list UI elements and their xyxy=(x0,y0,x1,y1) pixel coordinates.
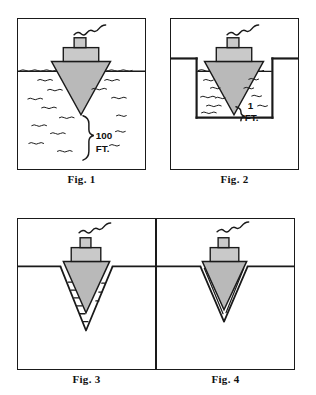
ship-hull xyxy=(63,261,109,312)
figure-row-bottom: Fig. 3 xyxy=(0,218,316,393)
ship-superstructure xyxy=(216,38,251,62)
figure-caption-4: Fig. 4 xyxy=(156,373,295,385)
smoke-trail xyxy=(217,222,249,232)
smoke-trail xyxy=(79,223,111,233)
figure-panel-1: 100 FT. xyxy=(17,18,146,170)
fig1-drawing: 100 FT. xyxy=(18,19,145,169)
figure-panel-3 xyxy=(17,218,156,370)
figure-caption-1: Fig. 1 xyxy=(17,173,146,185)
fig2-drawing: 1 FT. xyxy=(171,19,298,169)
figure-row-top: 100 FT. Fig. 1 xyxy=(0,18,316,193)
smoke-trail xyxy=(74,25,106,35)
ship-superstructure xyxy=(71,238,101,262)
figure-panel-2: 1 FT. xyxy=(170,18,299,170)
fig2-depth-unit: FT. xyxy=(245,112,259,123)
ship-superstructure xyxy=(210,238,239,262)
fig3-drawing xyxy=(18,219,155,369)
figure-caption-3: Fig. 3 xyxy=(17,373,156,385)
fig4-drawing xyxy=(157,219,294,369)
fig2-depth-value: 1 xyxy=(248,100,254,111)
smoke-trail xyxy=(227,25,259,35)
fig1-depth-value: 100 xyxy=(96,130,113,141)
figure-caption-2: Fig. 2 xyxy=(170,173,299,185)
ship-superstructure xyxy=(63,38,98,62)
figure-panel-4 xyxy=(156,218,295,370)
ship-hull xyxy=(51,61,110,114)
drawing-sheet: 100 FT. Fig. 1 xyxy=(0,0,316,395)
depth-brace-bracket xyxy=(83,116,94,160)
fig1-depth-unit: FT. xyxy=(96,143,110,154)
